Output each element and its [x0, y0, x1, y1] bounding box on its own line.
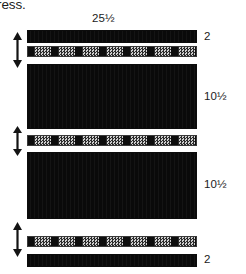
layer-upper-core-bond	[27, 46, 197, 57]
sandwich-panel-cross-section-diagram: ress. 25½ 2 10½ 10½ 2	[0, 0, 246, 274]
layer-lower-core-bond	[27, 236, 197, 247]
overall-width-label: 25½	[92, 12, 115, 24]
mid-bond-gap-arrow	[12, 126, 23, 156]
layer-upper-core	[27, 64, 197, 129]
layer-bottom-face-sheet	[27, 254, 197, 267]
lower-core-thickness-label: 10½	[204, 178, 227, 190]
upper-core-thickness-label: 10½	[204, 90, 227, 102]
caption-text-fragment: ress.	[0, 0, 26, 12]
layer-top-face-sheet	[27, 30, 197, 43]
top-face-thickness-label: 2	[204, 30, 211, 42]
layer-lower-core	[27, 152, 197, 219]
bottom-face-thickness-label: 2	[204, 253, 211, 265]
upper-bond-gap-arrow	[12, 32, 23, 68]
layer-mid-core-bond	[27, 135, 197, 146]
lower-bond-gap-arrow	[12, 222, 23, 257]
